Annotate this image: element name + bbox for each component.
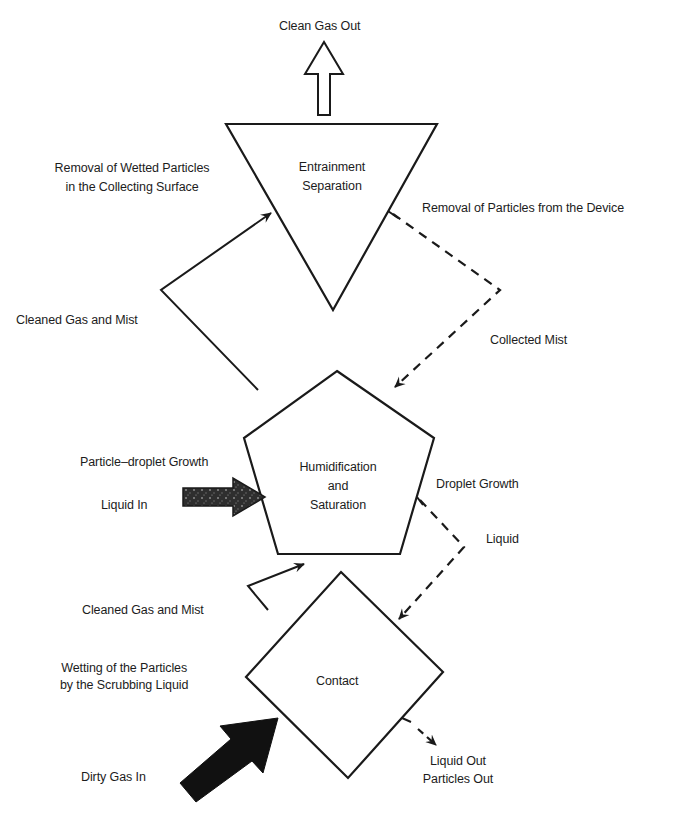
- dirty-gas-in-arrow: [180, 718, 278, 802]
- edge-humidification-to-entrainment: [161, 213, 271, 390]
- liquid-particles-out-label: Liquid Out Particles Out: [408, 754, 508, 787]
- entrainment-label-line1: Entrainment: [282, 160, 382, 175]
- edge-contact-to-liquid-out: [418, 729, 436, 745]
- liquid-out-line: Liquid Out: [408, 754, 508, 769]
- humidification-label-line3: Saturation: [286, 498, 390, 513]
- liquid-in-label: Liquid In: [101, 498, 147, 513]
- cleaned-gas-mist-top-label: Cleaned Gas and Mist: [16, 313, 138, 328]
- wetting-label: Wetting of the Particles by the Scrubbin…: [60, 661, 188, 693]
- wetting-line1: Wetting of the Particles: [60, 661, 188, 676]
- entrainment-label: Entrainment Separation: [282, 160, 382, 194]
- dirty-gas-in-label: Dirty Gas In: [81, 770, 146, 785]
- diagram-canvas: [0, 0, 694, 821]
- clean-gas-out-label: Clean Gas Out: [279, 19, 360, 34]
- humidification-label-line1: Humidification: [286, 460, 390, 475]
- humidification-label-line2: and: [286, 479, 390, 494]
- collected-mist-label: Collected Mist: [490, 333, 567, 348]
- edge-entrainment-to-humidification: [393, 214, 500, 387]
- particle-droplet-growth-label: Particle–droplet Growth: [80, 455, 208, 470]
- entrainment-label-line2: Separation: [282, 179, 382, 194]
- clean-gas-out-arrow: [305, 42, 343, 115]
- entrainment-separation-node: [226, 124, 437, 310]
- humidification-label: Humidification and Saturation: [286, 460, 390, 513]
- removal-wetted-label: Removal of Wetted Particles in the Colle…: [37, 161, 227, 195]
- droplet-growth-label: Droplet Growth: [436, 477, 519, 492]
- particles-out-line: Particles Out: [408, 772, 508, 787]
- liquid-in-arrow: [183, 478, 265, 516]
- edge-contact-to-humidification: [248, 564, 304, 610]
- wetting-line2: by the Scrubbing Liquid: [60, 678, 188, 693]
- removal-wetted-line2: in the Collecting Surface: [37, 180, 227, 195]
- liquid-label: Liquid: [486, 532, 519, 547]
- removal-wetted-line1: Removal of Wetted Particles: [37, 161, 227, 176]
- cleaned-gas-mist-bottom-label: Cleaned Gas and Mist: [82, 603, 204, 618]
- contact-label: Contact: [316, 674, 358, 689]
- removal-device-label: Removal of Particles from the Device: [422, 201, 624, 216]
